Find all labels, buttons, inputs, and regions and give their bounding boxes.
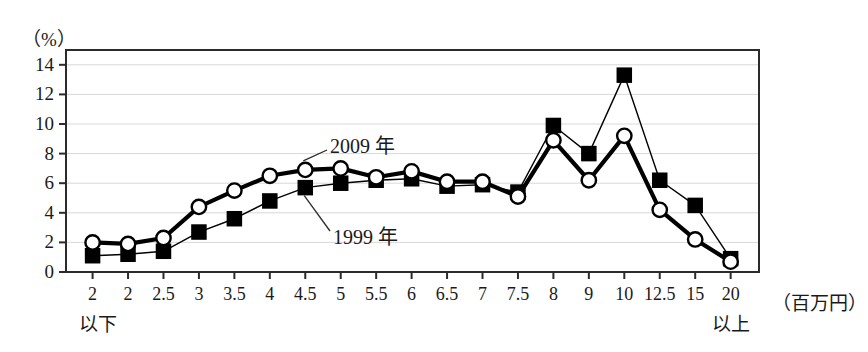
x-tick-label: 4 [265,285,274,303]
x-tick-label: 4.5 [294,285,317,303]
data-point-marker-square [86,249,100,263]
data-point-marker-square [192,225,206,239]
x-tick-label: 2.5 [152,285,175,303]
data-point-marker-circle [369,170,383,184]
data-point-marker-circle [511,189,525,203]
data-point-marker-square [653,173,667,187]
data-point-marker-circle [617,129,631,143]
data-point-marker-circle [475,175,489,189]
x-tick-label: 7.5 [507,285,530,303]
data-point-marker-square [263,194,277,208]
x-tick-label: 15 [686,285,704,303]
x-tick-label: 9 [584,285,593,303]
y-tick-label: 0 [26,262,54,281]
series-label-1999: 1999 年 [333,227,398,247]
x-tick-label: 7 [478,285,487,303]
data-point-marker-circle [688,232,702,246]
data-point-marker-square [227,212,241,226]
x-tick-label: 6 [407,285,416,303]
data-point-marker-circle [156,231,170,245]
x-tick-label: 10 [615,285,633,303]
y-tick-label: 8 [26,144,54,163]
data-point-marker-circle [263,169,277,183]
x-tick-label: 12.5 [644,285,676,303]
x-tick-label: 3.5 [223,285,246,303]
data-point-marker-square [298,181,312,195]
x-tick-label: 5 [336,285,345,303]
data-point-marker-circle [85,235,99,249]
data-point-marker-square [582,147,596,161]
series-label-2009: 2009 年 [330,136,395,156]
data-point-marker-square [546,118,560,132]
chart-container: （%） 14121086420 222.533.544.555.566.577.… [0,0,868,352]
data-point-marker-square [156,244,170,258]
annotation-leader-1999 [304,196,330,231]
x-tick-label: 6.5 [436,285,459,303]
data-point-marker-square [334,176,348,190]
x-axis-below-note: 以下 [79,315,117,334]
data-point-marker-circle [121,237,135,251]
data-point-marker-circle [298,163,312,177]
x-tick-label: 2 [124,285,133,303]
x-tick-label: 2 [88,285,97,303]
x-axis-above-note: 以上 [712,315,750,334]
y-tick-label: 4 [26,203,54,222]
y-tick-label: 10 [26,114,54,133]
annotation-leader-2009 [303,150,327,161]
x-tick-label: 8 [549,285,558,303]
data-point-marker-circle [334,161,348,175]
data-point-marker-square [617,68,631,82]
y-tick-label: 2 [26,232,54,251]
y-tick-label: 12 [26,84,54,103]
data-point-marker-circle [440,175,454,189]
data-point-marker-circle [192,200,206,214]
data-point-marker-circle [723,254,737,268]
x-tick-label: 5.5 [365,285,388,303]
data-point-marker-circle [227,183,241,197]
y-tick-label: 6 [26,173,54,192]
x-tick-label: 20 [722,285,740,303]
y-tick-label: 14 [26,55,54,74]
data-point-marker-circle [582,173,596,187]
data-point-marker-circle [404,164,418,178]
x-tick-label: 3 [194,285,203,303]
x-axis-unit-label: （百万円） [772,288,867,315]
data-point-marker-circle [546,133,560,147]
data-point-marker-circle [653,203,667,217]
y-axis-unit-label: （%） [22,24,76,51]
data-point-marker-square [688,198,702,212]
